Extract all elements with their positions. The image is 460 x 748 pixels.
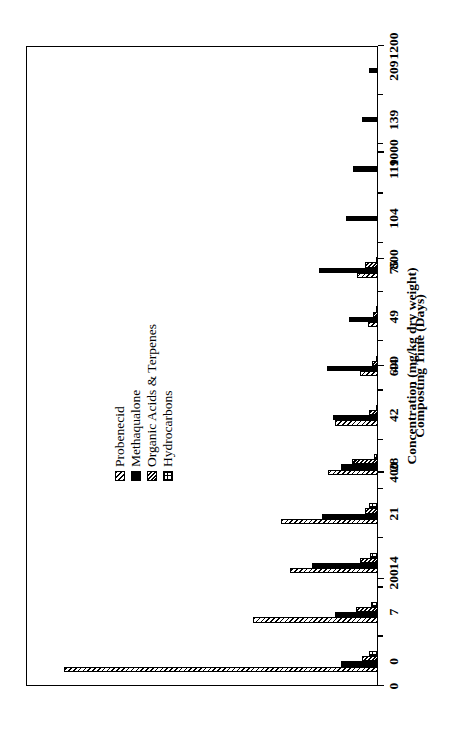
legend-swatch-icon: [131, 471, 141, 481]
bar: [356, 607, 378, 612]
bar: [64, 667, 378, 672]
category-axis-tick-label: 75: [386, 261, 402, 275]
value-axis-tick: [378, 45, 384, 46]
bar: [365, 509, 378, 514]
bar: [328, 470, 378, 475]
bar: [333, 415, 378, 420]
bar: [322, 514, 378, 519]
plot-area: ProbenecidMethaqualoneOrganic Acids & Te…: [26, 46, 378, 686]
category-axis-tick: [378, 537, 383, 538]
bar: [357, 273, 378, 278]
bar: [376, 306, 378, 311]
bar: [335, 420, 378, 425]
bar: [369, 651, 378, 656]
legend-swatch-icon: [147, 471, 157, 481]
bar-group: [26, 538, 378, 587]
category-axis-tick-label: 7: [386, 609, 402, 616]
bar-group: [26, 440, 378, 489]
bar-group: [26, 194, 378, 243]
category-axis-title: Composting Time (Days): [412, 46, 428, 686]
legend-swatch-icon: [115, 471, 125, 481]
legend-label: Methaqualone: [129, 390, 143, 467]
value-axis-tick: [378, 258, 384, 259]
bar: [341, 661, 378, 666]
bar: [281, 519, 378, 524]
legend-item: Organic Acids & Terpenes: [144, 324, 159, 481]
bar: [369, 410, 378, 415]
category-axis-tick: [378, 291, 383, 292]
category-axis-tick: [378, 635, 383, 636]
category-axis-tick: [378, 143, 383, 144]
bar: [346, 216, 378, 221]
category-axis-tick: [378, 586, 383, 587]
bar: [349, 317, 378, 322]
bar: [362, 656, 378, 661]
legend-item: Methaqualone: [128, 324, 143, 481]
bar-group: [26, 341, 378, 390]
category-axis-tick-label: 119: [386, 159, 402, 179]
category-axis-tick: [378, 439, 383, 440]
category-axis-tick-label: 104: [386, 208, 402, 228]
category-axis-tick-label: 21: [386, 507, 402, 521]
bar: [360, 558, 378, 563]
chart-legend: ProbenecidMethaqualoneOrganic Acids & Te…: [112, 324, 176, 481]
value-axis-tick: [378, 365, 384, 366]
value-axis-tick-label: 0: [386, 683, 402, 690]
bar: [335, 612, 378, 617]
category-axis-tick-label: 0: [386, 658, 402, 665]
category-axis-tick: [378, 94, 383, 95]
bar-group: [26, 637, 378, 686]
legend-label: Organic Acids & Terpenes: [145, 324, 159, 467]
bar: [368, 322, 378, 327]
bar-groups: [26, 46, 378, 686]
bar: [353, 166, 378, 171]
category-axis-tick-label: 139: [386, 110, 402, 130]
category-axis-tick-label: 209: [386, 61, 402, 81]
bar: [369, 68, 378, 73]
bar: [376, 356, 378, 361]
chart-canvas: ProbenecidMethaqualoneOrganic Acids & Te…: [0, 0, 460, 748]
category-axis-tick-label: 42: [386, 408, 402, 422]
category-axis-tick-label: 14: [386, 556, 402, 570]
bar: [362, 117, 378, 122]
bar: [327, 366, 378, 371]
bar-group: [26, 243, 378, 292]
value-axis-tick: [378, 151, 384, 152]
category-axis-tick: [378, 488, 383, 489]
bar: [370, 553, 378, 558]
legend-item: Probenecid: [112, 324, 127, 481]
bar: [360, 371, 378, 376]
bar: [365, 262, 378, 267]
category-axis-tick-label: 44: [386, 359, 402, 373]
bar-group: [26, 588, 378, 637]
bar: [369, 503, 378, 508]
legend-label: Hydrocarbons: [161, 391, 175, 467]
value-axis-tick: [378, 578, 384, 579]
category-axis-tick-label: 49: [386, 310, 402, 324]
bar-group: [26, 46, 378, 95]
category-axis-tick: [378, 192, 383, 193]
bar: [376, 405, 378, 410]
value-axis-tick: [378, 471, 384, 472]
bar: [373, 312, 378, 317]
bar: [319, 268, 378, 273]
bar: [290, 568, 378, 573]
bar-group: [26, 95, 378, 144]
category-axis-tick: [378, 389, 383, 390]
bar: [371, 602, 378, 607]
value-axis-tick: [378, 685, 384, 686]
bar: [341, 464, 378, 469]
value-axis-tick-label: 1200: [386, 33, 402, 60]
legend-swatch-icon: [163, 471, 173, 481]
bar-group: [26, 489, 378, 538]
legend-item: Hydrocarbons: [160, 324, 175, 481]
bar-group: [26, 391, 378, 440]
bar-group: [26, 292, 378, 341]
category-axis-tick-label: 28: [386, 458, 402, 472]
bar: [352, 459, 378, 464]
bar: [312, 563, 378, 568]
bar-group: [26, 144, 378, 193]
bar: [253, 617, 378, 622]
category-axis-tick: [378, 242, 383, 243]
category-axis-tick: [378, 340, 383, 341]
